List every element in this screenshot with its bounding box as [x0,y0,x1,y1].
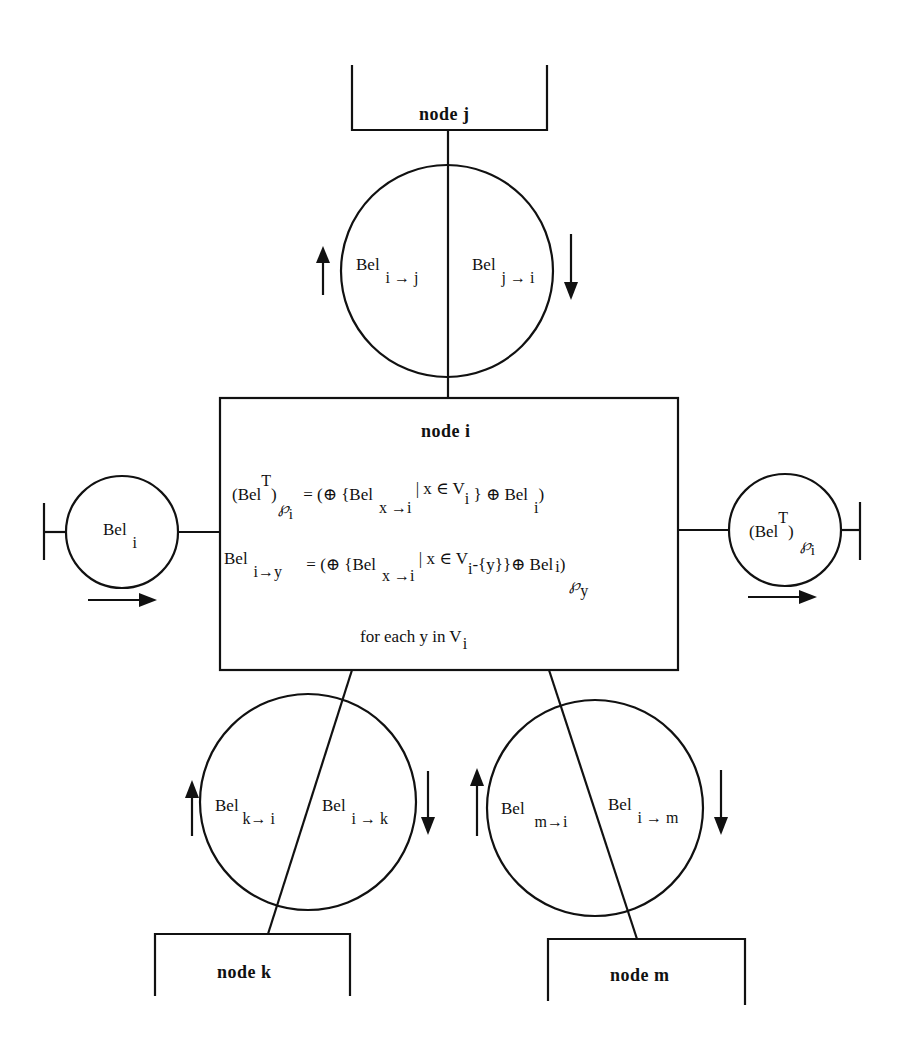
message-bel-i-to-m: Beli → m [608,796,679,813]
message-bel-m-to-i: Belm→i [501,800,568,817]
arrow-up-icon [185,780,199,798]
equation-bel-i-to-y: Beli→y = (⊕ {Belx →i | x ∈ Vi-{y}}⊕ Beli… [224,550,588,567]
arrow-down-icon [421,817,435,835]
node-i-label: node i [421,422,471,440]
equation-note: for each y in Vi [360,628,467,645]
equation-bel-t: (BelT)℘i = (⊕ {Belx →i | x ∈ Vi } ⊕ Beli… [232,486,544,503]
message-bel-k-to-i: Belk→ i [215,797,275,814]
arrow-down-icon [564,282,578,300]
arrow-right-icon [799,590,817,604]
arrow-right-icon [139,593,157,607]
message-bel-i-to-k: Beli → k [322,797,388,814]
node-m-label: node m [610,966,670,984]
arrow-up-icon [316,246,330,263]
message-bel-j-to-i: Belj → i [472,256,535,273]
arrow-up-icon [470,768,484,786]
arrow-down-icon [714,817,728,835]
message-bel-i-to-j: Beli → j [356,256,419,273]
input-bel-i: Beli [103,521,137,538]
node-k-label: node k [217,963,272,981]
output-bel-t-projection: (BelT)℘i [749,523,815,540]
node-j-label: node j [419,105,470,123]
